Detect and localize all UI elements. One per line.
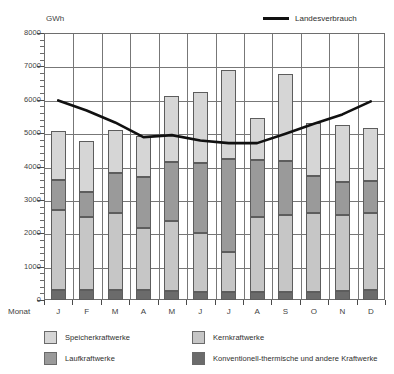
bar-segment[interactable] bbox=[363, 290, 378, 300]
bar-segment[interactable] bbox=[108, 173, 123, 213]
bar-stack[interactable] bbox=[278, 33, 293, 300]
bar-segment[interactable] bbox=[221, 252, 236, 292]
gridline-vertical bbox=[187, 34, 188, 299]
gridline-horizontal bbox=[45, 201, 384, 202]
bar-segment[interactable] bbox=[193, 233, 208, 292]
bar-segment[interactable] bbox=[108, 213, 123, 290]
bar-segment[interactable] bbox=[79, 290, 94, 300]
gridline-horizontal bbox=[45, 234, 384, 235]
legend-item[interactable]: Speicherkraftwerke bbox=[44, 331, 192, 344]
bar-segment[interactable] bbox=[164, 96, 179, 161]
legend-item[interactable]: Konventionell-thermische und andere Kraf… bbox=[192, 352, 384, 365]
bar-segment[interactable] bbox=[278, 161, 293, 215]
bar-stack[interactable] bbox=[193, 33, 208, 300]
bar-segment[interactable] bbox=[221, 70, 236, 159]
y-axis-major-tick bbox=[37, 167, 44, 168]
bar-segment[interactable] bbox=[363, 213, 378, 290]
bar-stack[interactable] bbox=[79, 33, 94, 300]
bar-segment[interactable] bbox=[164, 162, 179, 221]
x-axis-tick bbox=[215, 300, 216, 305]
y-axis-minor-tick bbox=[40, 106, 44, 107]
bar-segment[interactable] bbox=[221, 292, 236, 300]
bar-segment[interactable] bbox=[164, 291, 179, 300]
bar-segment[interactable] bbox=[221, 159, 236, 251]
y-axis-minor-tick bbox=[40, 260, 44, 261]
bar-stack[interactable] bbox=[136, 33, 151, 300]
bar-segment[interactable] bbox=[79, 141, 94, 192]
bar-segment[interactable] bbox=[335, 125, 350, 182]
x-axis-tick-label: N bbox=[328, 307, 356, 316]
bar-segment[interactable] bbox=[193, 292, 208, 300]
bar-segment[interactable] bbox=[306, 292, 321, 300]
bar-segment[interactable] bbox=[250, 217, 265, 292]
y-axis-major-tick bbox=[37, 133, 44, 134]
bar-segment[interactable] bbox=[306, 176, 321, 213]
y-axis-tick-label: 4000 bbox=[7, 163, 41, 171]
gridline-vertical bbox=[130, 34, 131, 299]
bar-segment[interactable] bbox=[250, 160, 265, 217]
bar-segment[interactable] bbox=[363, 128, 378, 181]
bar-segment[interactable] bbox=[250, 292, 265, 300]
y-axis-major-tick bbox=[37, 100, 44, 101]
y-axis-minor-tick bbox=[40, 160, 44, 161]
bar-segment[interactable] bbox=[136, 228, 151, 290]
bar-segment[interactable] bbox=[136, 136, 151, 176]
y-axis-minor-tick bbox=[40, 253, 44, 254]
x-axis-tick-label: A bbox=[129, 307, 157, 316]
bar-stack[interactable] bbox=[221, 33, 236, 300]
bar-stack[interactable] bbox=[335, 33, 350, 300]
x-axis-tick-label: D bbox=[357, 307, 385, 316]
bar-stack[interactable] bbox=[306, 33, 321, 300]
bar-segment[interactable] bbox=[306, 123, 321, 176]
bar-stack[interactable] bbox=[108, 33, 123, 300]
legend-label: Kernkraftwerke bbox=[213, 333, 264, 342]
bar-segment[interactable] bbox=[108, 290, 123, 300]
bar-segment[interactable] bbox=[278, 292, 293, 300]
bar-segment[interactable] bbox=[250, 118, 265, 160]
bar-segment[interactable] bbox=[108, 130, 123, 173]
y-axis-major-tick bbox=[37, 200, 44, 201]
chart-figure: GWh Landesverbrauch 01000200030004000500… bbox=[0, 0, 394, 374]
bar-segment[interactable] bbox=[136, 290, 151, 300]
x-axis-tick-label: J bbox=[215, 307, 243, 316]
bar-segment[interactable] bbox=[278, 215, 293, 292]
bar-segment[interactable] bbox=[51, 210, 66, 290]
line-legend: Landesverbrauch bbox=[263, 14, 357, 23]
bar-segment[interactable] bbox=[306, 213, 321, 291]
bar-segment[interactable] bbox=[335, 182, 350, 215]
y-axis-minor-tick bbox=[40, 126, 44, 127]
x-axis-title: Monat bbox=[8, 307, 30, 316]
landesverbrauch-legend-label: Landesverbrauch bbox=[295, 14, 357, 23]
x-axis-tick bbox=[101, 300, 102, 305]
bar-segment[interactable] bbox=[335, 291, 350, 300]
bar-segment[interactable] bbox=[51, 180, 66, 210]
bar-segment[interactable] bbox=[278, 74, 293, 161]
y-axis-minor-tick bbox=[40, 220, 44, 221]
gridline-horizontal bbox=[45, 101, 384, 102]
gridline-vertical bbox=[244, 34, 245, 299]
legend-label: Speicherkraftwerke bbox=[65, 333, 130, 342]
bar-segment[interactable] bbox=[79, 192, 94, 216]
bar-segment[interactable] bbox=[193, 92, 208, 163]
bar-segment[interactable] bbox=[79, 217, 94, 291]
bar-stack[interactable] bbox=[164, 33, 179, 300]
bar-segment[interactable] bbox=[193, 163, 208, 232]
legend-item[interactable]: Laufkraftwerke bbox=[44, 352, 192, 365]
y-axis-minor-tick bbox=[40, 213, 44, 214]
bar-stack[interactable] bbox=[363, 33, 378, 300]
bar-segment[interactable] bbox=[136, 177, 151, 228]
bar-segment[interactable] bbox=[51, 290, 66, 300]
y-axis-minor-tick bbox=[40, 247, 44, 248]
legend-item[interactable]: Kernkraftwerke bbox=[192, 331, 384, 344]
x-axis-tick bbox=[328, 300, 329, 305]
bar-stack[interactable] bbox=[51, 33, 66, 300]
bar-segment[interactable] bbox=[51, 131, 66, 179]
y-axis-minor-tick bbox=[40, 86, 44, 87]
y-axis-minor-tick bbox=[40, 187, 44, 188]
bar-segment[interactable] bbox=[363, 181, 378, 213]
y-axis-major-tick bbox=[37, 267, 44, 268]
bar-segment[interactable] bbox=[335, 215, 350, 291]
gridline-vertical bbox=[301, 34, 302, 299]
bar-stack[interactable] bbox=[250, 33, 265, 300]
bar-segment[interactable] bbox=[164, 221, 179, 291]
